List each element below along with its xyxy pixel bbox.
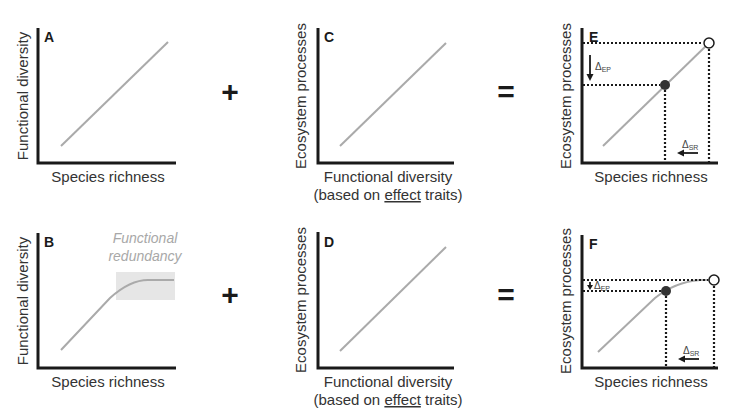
panel-e: ΔEP ΔSR E Ecosystem processes Species ri… xyxy=(557,23,718,185)
panel-e-xlabel: Species richness xyxy=(594,168,707,185)
panel-c-xlabel: Functional diversity xyxy=(324,168,453,185)
panel-f-letter: F xyxy=(589,236,598,252)
functional-redundancy-label-1: Functional xyxy=(113,230,178,246)
filled-circle-marker xyxy=(661,286,671,296)
panel-a-axes xyxy=(38,28,176,163)
panel-d-letter: D xyxy=(324,234,334,250)
panel-f-ylabel: Ecosystem processes xyxy=(557,228,574,374)
panel-d-xlabel: Functional diversity xyxy=(324,373,453,390)
panel-e-letter: E xyxy=(589,29,598,45)
equals-operator-bottom: = xyxy=(497,278,515,311)
effect-underlined: effect xyxy=(384,186,421,203)
panel-d-curve xyxy=(340,247,446,351)
panel-c-letter: C xyxy=(324,29,334,45)
open-circle-marker xyxy=(709,275,719,285)
panel-e-curve xyxy=(603,43,709,146)
figure: A Functional diversity Species richness … xyxy=(0,0,729,416)
panel-f-delta-sr: ΔSR xyxy=(683,345,699,357)
left-arrow-icon xyxy=(677,150,684,157)
down-arrow-icon xyxy=(587,74,594,81)
panel-b-ylabel: Functional diversity xyxy=(14,236,31,365)
panel-d: D Ecosystem processes Functional diversi… xyxy=(292,227,462,408)
panel-f: ΔEP ΔSR F Ecosystem processes Species ri… xyxy=(557,228,719,390)
plus-operator-top: + xyxy=(221,75,239,108)
panel-a: A Functional diversity Species richness xyxy=(14,28,176,185)
panel-f-xlabel: Species richness xyxy=(594,373,707,390)
panel-c-xlabel-sub: (based on effect traits) xyxy=(314,186,463,203)
down-arrow-icon xyxy=(587,285,593,290)
panel-c-curve xyxy=(340,43,446,146)
panel-d-axes xyxy=(318,232,454,368)
panel-a-ylabel: Functional diversity xyxy=(14,31,31,160)
panel-e-delta-ep: ΔEP xyxy=(595,61,611,73)
panel-c: C Ecosystem processes Functional diversi… xyxy=(292,23,462,203)
filled-circle-marker xyxy=(660,80,670,90)
panel-d-xlabel-sub: (based on effect traits) xyxy=(314,391,463,408)
equals-operator-top: = xyxy=(497,75,515,108)
panel-f-curve xyxy=(598,280,709,352)
left-arrow-icon xyxy=(678,356,685,363)
effect-underlined: effect xyxy=(384,391,421,408)
panel-d-ylabel: Ecosystem processes xyxy=(292,227,309,373)
panel-b: B Functional redundancy Functional diver… xyxy=(14,230,183,390)
functional-redundancy-label-2: redundancy xyxy=(108,248,182,264)
open-circle-marker xyxy=(704,38,714,48)
panel-b-xlabel: Species richness xyxy=(51,373,164,390)
panel-a-xlabel: Species richness xyxy=(51,168,164,185)
panel-c-axes xyxy=(318,28,454,163)
panel-e-ylabel: Ecosystem processes xyxy=(557,23,574,169)
plus-operator-bottom: + xyxy=(221,278,239,311)
panel-a-letter: A xyxy=(44,29,54,45)
panel-f-delta-ep: ΔEP xyxy=(594,280,610,292)
panel-c-ylabel: Ecosystem processes xyxy=(292,23,309,169)
panel-e-delta-sr: ΔSR xyxy=(682,139,698,151)
panel-b-letter: B xyxy=(44,234,54,250)
panel-a-curve xyxy=(61,42,168,146)
panel-e-axes xyxy=(582,28,718,163)
